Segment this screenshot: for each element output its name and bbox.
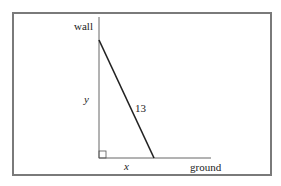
right-angle-marker bbox=[99, 151, 106, 158]
y-label: y bbox=[83, 93, 89, 105]
wall-label: wall bbox=[74, 20, 93, 32]
x-label: x bbox=[123, 160, 129, 172]
hypotenuse-label: 13 bbox=[135, 102, 147, 114]
ground-label: ground bbox=[190, 161, 222, 173]
ladder-line bbox=[99, 40, 154, 158]
ladder-diagram: wall ground y x 13 bbox=[0, 0, 281, 186]
